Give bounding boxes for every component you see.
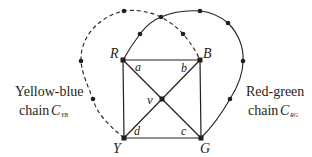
edge-R-v bbox=[123, 60, 162, 99]
vertex-Y bbox=[122, 136, 127, 141]
chain-vertex bbox=[122, 9, 127, 14]
angle-label-b: b bbox=[181, 61, 187, 75]
chain-vertex bbox=[241, 59, 246, 64]
vertex-label-R: R bbox=[109, 46, 119, 61]
red-green-chain-word: chain bbox=[248, 103, 278, 118]
vertex-label-v: v bbox=[147, 92, 153, 107]
angle-label-c: c bbox=[181, 124, 187, 138]
chain-vertex bbox=[198, 9, 203, 14]
yellow-blue-subscript: YB bbox=[61, 112, 68, 118]
red-green-symbol: C bbox=[280, 103, 290, 118]
yellow-blue-symbol: C bbox=[51, 103, 61, 118]
vertex-R bbox=[121, 58, 126, 63]
edge-R-Y bbox=[123, 60, 124, 138]
yellow-blue-chain-word: chain bbox=[19, 103, 49, 118]
vertex-label-B: B bbox=[203, 46, 212, 61]
red-green-chain-vertices bbox=[138, 9, 246, 102]
chain-vertex bbox=[91, 97, 96, 102]
chain-vertex bbox=[138, 32, 143, 37]
chain-vertex bbox=[228, 97, 233, 102]
angle-label-d: d bbox=[134, 124, 141, 138]
edge-B-G bbox=[200, 60, 201, 138]
chain-vertex bbox=[226, 21, 231, 26]
vertex-label-G: G bbox=[200, 141, 210, 156]
vertex-B bbox=[198, 58, 203, 63]
yellow-blue-chain-caption: Yellow-blue chain C YB bbox=[15, 84, 84, 118]
vertex-v bbox=[160, 97, 165, 102]
yellow-blue-title: Yellow-blue bbox=[15, 84, 84, 99]
vertex-label-Y: Y bbox=[113, 141, 123, 156]
red-green-subscript: RG bbox=[289, 112, 299, 118]
vertex-G bbox=[199, 136, 204, 141]
edge-v-Y bbox=[124, 99, 162, 138]
chain-vertex bbox=[79, 59, 84, 64]
angle-label-a: a bbox=[135, 60, 141, 74]
chain-crossing-vertex bbox=[159, 15, 164, 20]
red-green-chain-caption: Red-green chain C RG bbox=[246, 84, 304, 118]
red-green-title: Red-green bbox=[246, 84, 304, 99]
chain-vertex bbox=[181, 32, 186, 37]
kempe-chain-diagram: R B Y G v a b c d Yellow-blue chain C YB… bbox=[0, 0, 312, 157]
